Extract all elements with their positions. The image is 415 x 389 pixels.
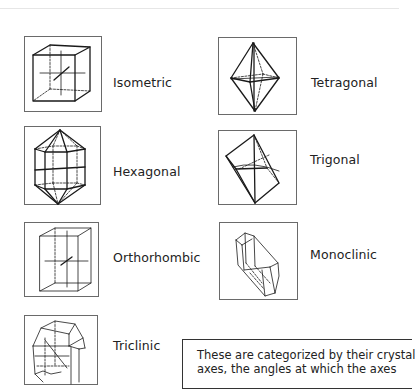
bipyramid-crystal-icon — [219, 38, 298, 116]
orthorhombic-label: Orthorhombic — [113, 250, 201, 265]
isometric-label: Isometric — [113, 75, 172, 90]
triclinic-crystal-icon — [25, 316, 99, 386]
orthorhombic-figure — [24, 222, 99, 297]
monoclinic-label: Monoclinic — [310, 247, 377, 262]
top-divider — [0, 8, 399, 9]
rhombohedron-crystal-icon — [219, 131, 298, 206]
cube-crystal-icon — [25, 37, 103, 113]
trigonal-figure — [218, 130, 297, 205]
hexagonal-prism-crystal-icon — [25, 127, 102, 206]
callout-line-1: These are categorized by their crystal — [197, 348, 412, 362]
rectangular-prism-crystal-icon — [25, 223, 100, 298]
monoclinic-prism-crystal-icon — [220, 223, 299, 301]
hexagonal-figure — [24, 126, 101, 205]
isometric-figure — [24, 36, 102, 112]
hexagonal-label: Hexagonal — [113, 164, 180, 179]
tetragonal-label: Tetragonal — [311, 75, 378, 90]
triclinic-figure — [24, 315, 98, 385]
description-callout: These are categorized by their crystal a… — [182, 339, 412, 389]
monoclinic-figure — [219, 222, 298, 300]
trigonal-label: Trigonal — [310, 152, 360, 167]
tetragonal-figure — [218, 37, 297, 115]
callout-line-2: axes, the angles at which the axes — [197, 362, 412, 376]
triclinic-label: Triclinic — [113, 338, 160, 353]
